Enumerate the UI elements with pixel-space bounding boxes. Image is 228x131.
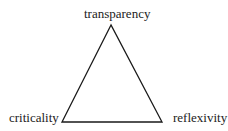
label-reflexivity: reflexivity — [173, 111, 227, 124]
triangle-shape — [62, 25, 162, 122]
label-transparency: transparency — [84, 7, 150, 20]
label-criticality: criticality — [9, 111, 59, 124]
